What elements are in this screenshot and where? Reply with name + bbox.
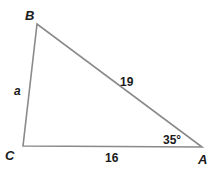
vertex-label-c: C <box>5 148 15 163</box>
vertex-label-b: B <box>25 8 34 23</box>
side-label-ca: 16 <box>105 151 119 165</box>
angle-label-a: 35° <box>163 133 181 147</box>
vertex-label-a: A <box>197 152 207 167</box>
side-label-a: a <box>14 84 21 98</box>
triangle-abc <box>23 24 202 147</box>
side-label-ab: 19 <box>120 75 134 89</box>
triangle-diagram: B C A a 19 16 35° <box>0 0 216 172</box>
